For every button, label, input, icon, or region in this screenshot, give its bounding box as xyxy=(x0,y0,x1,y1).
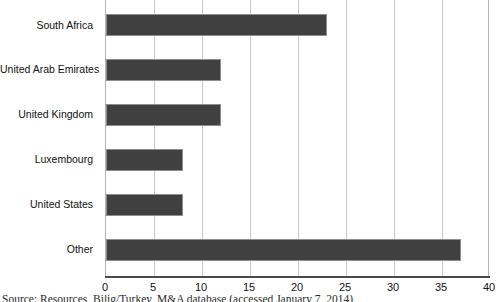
x-tick-label-20: 20 xyxy=(282,281,312,294)
plot-area xyxy=(105,0,489,277)
x-tick-label-15: 15 xyxy=(234,281,264,294)
horizontal-bar-chart: South Africa United Arab Emirates United… xyxy=(0,0,498,302)
x-tick-label-0: 0 xyxy=(90,281,120,294)
x-tick-label-5: 5 xyxy=(138,281,168,294)
category-label-luxembourg: Luxembourg xyxy=(0,153,93,165)
x-axis-line xyxy=(105,276,490,278)
x-tick-label-35: 35 xyxy=(426,281,456,294)
bar-united-states xyxy=(106,194,183,216)
bar-united-arab-emirates xyxy=(106,59,221,81)
bar-other xyxy=(106,239,461,261)
x-tick-label-30: 30 xyxy=(378,281,408,294)
category-label-united-kingdom: United Kingdom xyxy=(0,108,93,120)
source-caption-text: Source: Resources, Bilig/Turkey, M&A dat… xyxy=(2,295,353,302)
x-tick-label-10: 10 xyxy=(186,281,216,294)
x-tick-label-40: 40 xyxy=(474,281,498,294)
category-label-other: Other xyxy=(0,243,93,255)
bar-united-kingdom xyxy=(106,104,221,126)
category-label-south-africa: South Africa xyxy=(0,19,93,31)
bar-luxembourg xyxy=(106,149,183,171)
source-caption: Source: Resources, Bilig/Turkey, M&A dat… xyxy=(0,295,498,302)
category-label-united-arab-emirates: United Arab Emirates xyxy=(0,63,93,75)
bar-south-africa xyxy=(106,14,327,36)
category-axis: South Africa United Arab Emirates United… xyxy=(0,0,99,277)
category-label-united-states: United States xyxy=(0,198,93,210)
x-axis-tick-labels: 0510152025303540 xyxy=(0,281,498,295)
bars-layer xyxy=(106,0,488,276)
x-tick-label-25: 25 xyxy=(330,281,360,294)
